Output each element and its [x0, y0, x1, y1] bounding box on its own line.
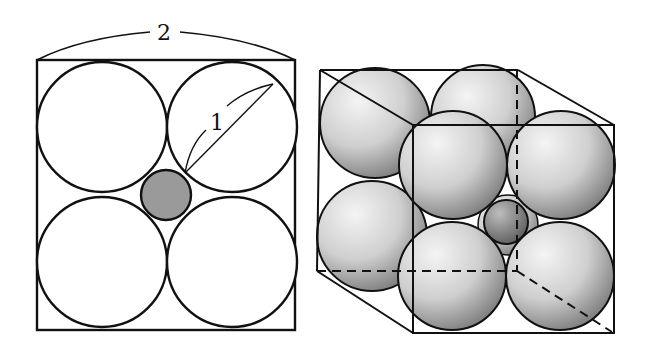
edge-length-arc	[180, 32, 295, 60]
figure-canvas: 2 1	[0, 0, 645, 356]
sphere	[398, 222, 506, 330]
small-circle	[141, 170, 191, 220]
large-circle	[37, 62, 167, 192]
edge-length-arc	[37, 32, 150, 60]
large-circle	[167, 197, 297, 327]
left-panel	[37, 32, 297, 330]
sphere	[507, 111, 615, 219]
large-circle	[167, 62, 297, 192]
sphere	[399, 111, 507, 219]
large-circle	[37, 197, 167, 327]
right-panel	[317, 65, 615, 333]
diagonal-label: 1	[210, 110, 224, 135]
sphere	[506, 222, 614, 330]
edge-label: 2	[157, 20, 171, 45]
